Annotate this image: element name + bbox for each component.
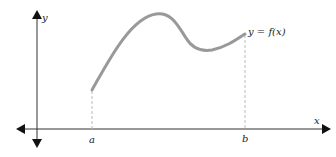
y-axis-up-arrow-icon bbox=[32, 10, 42, 19]
b-label: b bbox=[242, 133, 248, 144]
function-graph: y x a b y = f(x) bbox=[0, 0, 336, 157]
x-axis-left-arrow-icon bbox=[16, 124, 25, 134]
y-axis-label: y bbox=[41, 12, 48, 23]
a-label: a bbox=[89, 134, 95, 145]
x-axis-right-arrow-icon bbox=[322, 124, 331, 134]
function-curve bbox=[92, 14, 245, 90]
x-axis-label: x bbox=[314, 115, 320, 126]
function-label: y = f(x) bbox=[247, 26, 286, 37]
y-axis-down-arrow-icon bbox=[32, 139, 42, 148]
